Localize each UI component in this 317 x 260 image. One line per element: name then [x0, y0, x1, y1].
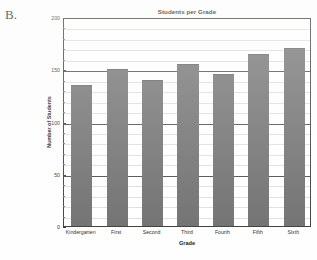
y-axis-label-layer: Number of Students [63, 18, 311, 227]
x-axis-title: Grade [63, 240, 311, 246]
x-axis-tick-label: Sixth [288, 229, 300, 235]
x-axis-tick-label: Kindergarten [66, 229, 96, 235]
y-axis-title: Number of Students [46, 96, 52, 148]
x-axis-tick-label: Second [143, 229, 161, 235]
x-axis-tick-label: Third [181, 229, 193, 235]
y-axis-tick-label: 150 [51, 67, 60, 73]
figure-letter-label: B. [5, 7, 17, 23]
x-axis-tick-label: Fifth [253, 229, 263, 235]
y-axis-tick-label: 50 [54, 172, 60, 178]
y-axis-tick-mark [63, 227, 66, 228]
chart-title: Students per Grade [63, 8, 311, 15]
bar-chart: Students per Grade 050100150200 Number o… [41, 8, 313, 256]
figure-container: B. Students per Grade 050100150200 Numbe… [0, 0, 317, 260]
y-axis-tick-label: 100 [51, 120, 60, 126]
y-axis-tick-label: 0 [57, 224, 60, 230]
x-axis-tick-label: Fourth [215, 229, 230, 235]
x-axis-tick-label: First [111, 229, 121, 235]
y-axis-tick-label: 200 [51, 15, 60, 21]
